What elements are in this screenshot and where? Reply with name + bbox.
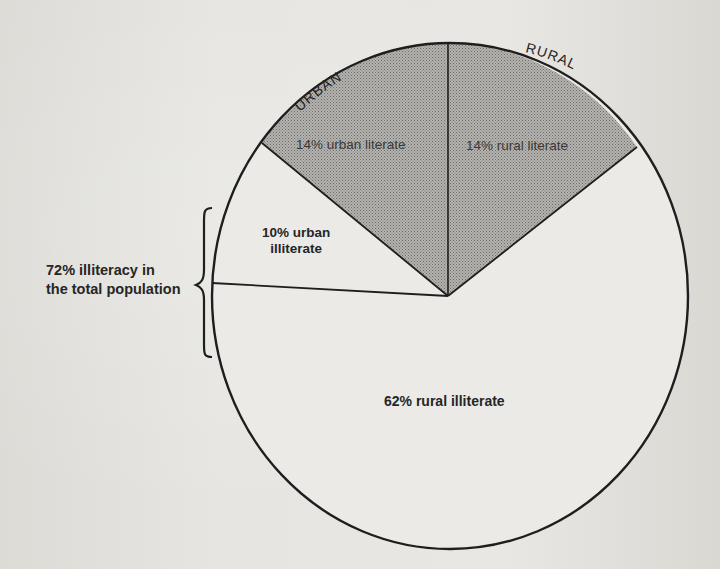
annotation-total-illiteracy: 72% illiteracy in the total population xyxy=(46,261,181,299)
annotation-line1: 72% illiteracy in xyxy=(46,261,181,280)
label-rural-illiterate: 62% rural illiterate xyxy=(384,393,505,409)
label-urban-illiterate: 10% urban illiterate xyxy=(262,225,330,256)
label-rural-literate: 14% rural literate xyxy=(466,138,568,154)
brace-icon xyxy=(196,208,212,357)
annotation-line2: the total population xyxy=(46,280,181,299)
label-urban-illiterate-line2: illiterate xyxy=(262,241,330,257)
label-urban-literate: 14% urban literate xyxy=(296,137,406,153)
label-urban-illiterate-line1: 10% urban xyxy=(262,225,330,241)
